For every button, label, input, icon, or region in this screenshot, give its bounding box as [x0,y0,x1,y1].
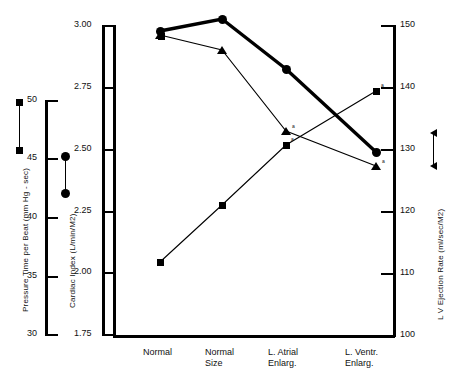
data-point-lv-ejection-rate [371,162,381,170]
significance-annotation: a [291,137,294,142]
chart-figure: 50 45 40 35 30 Pressure Time per Beat (m… [0,0,459,385]
data-point-cardiac-index [218,15,227,24]
significance-annotation: a [381,83,384,88]
data-point-lv-ejection-rate [217,46,227,54]
data-point-pressure-time [283,142,290,149]
x-axis-category-label: Normal Size [205,347,265,369]
data-point-pressure-time [158,33,165,40]
series-lines [0,0,459,385]
series-line-pressure-time [160,91,376,262]
data-point-cardiac-index [282,65,291,74]
significance-annotation: a [382,159,385,164]
x-axis-category-label: L. Ventr. Enlarg. [345,347,411,369]
x-axis-category-label: L. Atrial Enlarg. [268,347,334,369]
x-axis-category-label: Normal [143,347,203,358]
data-point-lv-ejection-rate [281,127,291,135]
significance-annotation: a [292,124,295,129]
data-point-cardiac-index [372,148,381,157]
data-point-pressure-time [219,202,226,209]
series-line-cardiac-index [160,19,376,152]
data-point-pressure-time [157,259,164,266]
data-point-pressure-time [373,88,380,95]
